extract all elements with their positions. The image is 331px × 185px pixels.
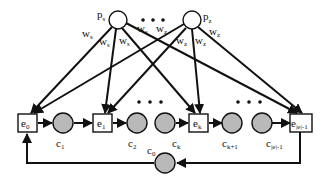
- recurrent-network-diagram: ps pz ws ws ws ws wz wz wz wz e0 e1 ek e…: [0, 0, 331, 185]
- weight-label-ps-elast: ws: [137, 22, 148, 36]
- label-p-z: pz: [203, 10, 212, 25]
- label-c-0: c0: [147, 144, 156, 158]
- label-c-2: c2: [128, 137, 137, 151]
- node-c-2: [127, 113, 147, 133]
- label-c-k: ck: [172, 137, 181, 151]
- node-c-0: [155, 153, 175, 173]
- node-c-k1: [222, 113, 242, 133]
- ellipsis-chain-right: [236, 100, 262, 104]
- ellipsis-chain-left: [137, 100, 163, 104]
- node-c-k: [155, 113, 175, 133]
- weight-label-ps-e0: ws: [82, 27, 93, 41]
- edge-pz-e0: [34, 24, 184, 113]
- label-c-k1: ck+1: [222, 137, 238, 151]
- label-c-last: c|e|-1: [266, 137, 283, 151]
- weight-label-ps-e1: ws: [99, 35, 110, 49]
- input-node-p-s: [109, 11, 127, 29]
- weight-label-pz-e1: wz: [176, 34, 187, 48]
- weight-label-pz-elast: wz: [209, 25, 220, 39]
- label-p-s: ps: [97, 8, 106, 23]
- weight-label-pz-e0: wz: [156, 22, 167, 36]
- node-c-1: [53, 113, 73, 133]
- weight-label-pz-ek: wz: [195, 34, 206, 48]
- input-node-p-z: [183, 11, 201, 29]
- node-c-last: [252, 113, 272, 133]
- label-c-1: c1: [56, 137, 65, 151]
